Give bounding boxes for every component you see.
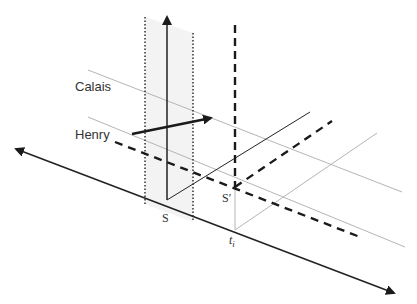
world-band <box>145 17 193 222</box>
label-henry: Henry <box>75 127 110 142</box>
s-prime-diagonal <box>235 121 332 187</box>
label-s-prime: S′ <box>222 191 232 205</box>
henry-worldline <box>88 117 405 247</box>
diagram-canvas: Calais Henry S S′ ti <box>0 0 417 304</box>
label-s: S <box>162 211 169 225</box>
ti-diagonal <box>235 133 377 230</box>
time-axis <box>16 149 394 293</box>
label-t-subscript: i <box>232 239 235 249</box>
calais-worldline <box>88 70 402 192</box>
label-t-i: ti <box>229 233 235 249</box>
label-calais: Calais <box>75 79 112 94</box>
diagram-svg: Calais Henry S S′ ti <box>0 0 417 304</box>
